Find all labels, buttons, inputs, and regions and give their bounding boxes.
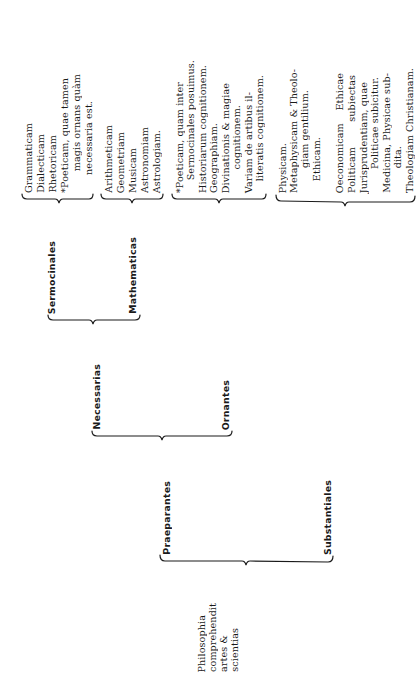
brace-necessarias xyxy=(48,315,140,324)
root-line-3: artes & xyxy=(218,635,229,672)
leaf-geographiam: Geographiam. xyxy=(208,123,219,193)
leaf-physicam: Physicam. xyxy=(277,143,288,193)
leaf-theologiam: Theologiam Christianam. xyxy=(404,68,415,193)
root-line-1: Philosophia xyxy=(196,615,207,672)
leaf-divinationis: Divinationis & magiae xyxy=(220,83,231,193)
root-line-4: scientias xyxy=(229,628,240,672)
leaf-metaphysicam: Metaphysicam & Theolo- xyxy=(288,69,299,193)
leaf-arithmeticam: Arithmeticam xyxy=(103,125,114,193)
brace-praeparantes xyxy=(92,431,232,440)
leaf-musicam: Musicam xyxy=(127,148,138,193)
node-substantiales: Substantiales xyxy=(322,480,334,555)
leaf-medicina-cont: dita. xyxy=(392,146,403,168)
leaf-poeticam-note-end: necessaria est. xyxy=(83,101,94,175)
leaf-dialecticam: Dialecticam xyxy=(35,134,46,193)
leaf-geometriam: Geometriam xyxy=(115,132,126,193)
leaf-poeticam-note-cont: magis ornans quàm xyxy=(71,74,82,171)
brace-substantiales-leaves xyxy=(276,195,415,206)
leaf-divinationis-cont: cognitionem. xyxy=(231,105,242,169)
leaf-jurisprudentiam-cont: Politicae subicitur. xyxy=(369,77,380,169)
leaf-variam-cont: literatis cognitionem. xyxy=(254,75,265,181)
root-line-2: comprehendit xyxy=(207,603,218,672)
leaf-politicam: Politicam subiectas xyxy=(346,75,357,193)
leaf-poeticam-note: *Poeticam, quae tamen xyxy=(59,78,70,193)
leaf-medicina: Medicina, Physicae sub- xyxy=(381,73,392,193)
brace-root xyxy=(160,555,333,565)
leaf-poeticam-ornans: *Poeticam, quam inter xyxy=(174,82,185,193)
node-necessarias: Necessarias xyxy=(91,364,103,430)
node-mathematicas: Mathematicas xyxy=(127,237,139,314)
leaf-metaphysicam-cont: giam gentilium. xyxy=(299,90,310,168)
leaf-grammaticam: Grammaticam xyxy=(23,123,34,193)
leaf-poeticam-ornans-cont: Sermocinales posuimus. xyxy=(185,60,196,180)
brace-mathematicas-leaves xyxy=(101,194,163,203)
leaf-ethicam: Ethicam. xyxy=(311,137,322,181)
leaf-rhetoricam: Rhetoricam xyxy=(47,135,58,193)
node-ornantes: Ornantes xyxy=(220,380,232,430)
leaf-astronomiam: Astronomiam xyxy=(139,127,150,193)
leaf-jurisprudentiam: Jurisprudentiam, quae xyxy=(358,82,369,193)
leaf-historiarum: Historiarum cognitionem. xyxy=(197,65,208,193)
leaf-astrologiam: Astrologiam. xyxy=(151,130,162,193)
node-sermocinales: Sermocinales xyxy=(46,241,58,314)
leaf-variam: Variam de artibus il- xyxy=(243,92,254,193)
brace-ornantes-leaves xyxy=(172,194,266,203)
leaf-oeconomicam: Oeconomicam Ethicae xyxy=(334,73,345,193)
brace-sermocinales-leaves xyxy=(22,194,93,203)
node-praeparantes: Praeparantes xyxy=(161,481,173,555)
